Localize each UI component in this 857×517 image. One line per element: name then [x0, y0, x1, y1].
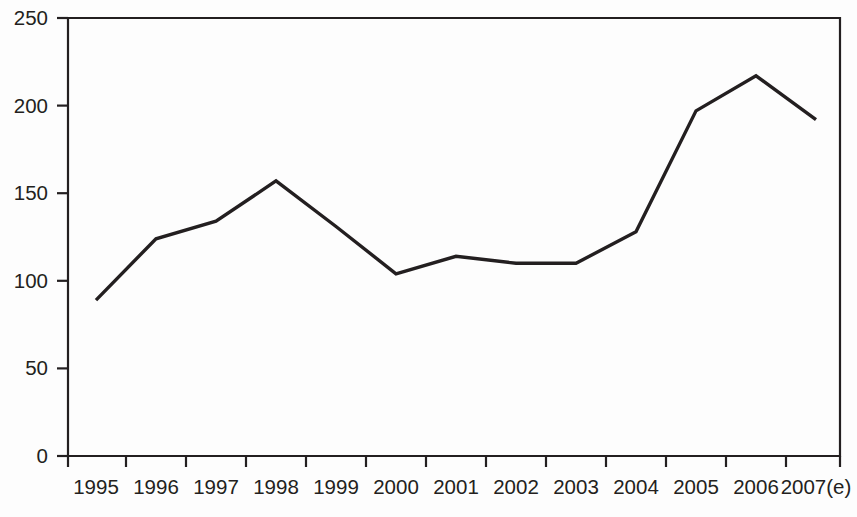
- y-tick-label: 250: [14, 6, 48, 29]
- y-tick-label: 50: [25, 356, 48, 379]
- axis-frame: [68, 18, 840, 456]
- x-axis-tick-labels: 1995199619971998199920002001200220032004…: [73, 475, 851, 498]
- x-tick-label: 1997: [193, 475, 239, 498]
- x-tick-label: 2002: [493, 475, 539, 498]
- x-tick-label: 1995: [73, 475, 119, 498]
- x-tick-label: 2003: [553, 475, 599, 498]
- y-tick-label: 200: [14, 94, 48, 117]
- y-tick-label: 0: [37, 444, 48, 467]
- x-tick-label: 2001: [433, 475, 479, 498]
- y-tick-label: 100: [14, 269, 48, 292]
- x-axis-ticks: [68, 456, 840, 467]
- y-tick-label: 150: [14, 181, 48, 204]
- y-axis-ticks: [57, 18, 68, 456]
- data-line-series-1: [96, 76, 816, 300]
- x-tick-label: 2005: [673, 475, 719, 498]
- x-tick-label: 1996: [133, 475, 179, 498]
- x-tick-label: 2007(e): [781, 475, 852, 498]
- x-tick-label: 2000: [373, 475, 419, 498]
- plot-frame: [68, 18, 840, 456]
- line-chart-svg: 050100150200250 199519961997199819992000…: [0, 0, 857, 517]
- data-series-group: [96, 76, 816, 300]
- y-axis-tick-labels: 050100150200250: [14, 6, 48, 467]
- x-tick-label: 2006: [733, 475, 779, 498]
- chart-figure: 050100150200250 199519961997199819992000…: [0, 0, 857, 517]
- x-tick-label: 2004: [613, 475, 659, 498]
- x-tick-label: 1999: [313, 475, 359, 498]
- x-tick-label: 1998: [253, 475, 299, 498]
